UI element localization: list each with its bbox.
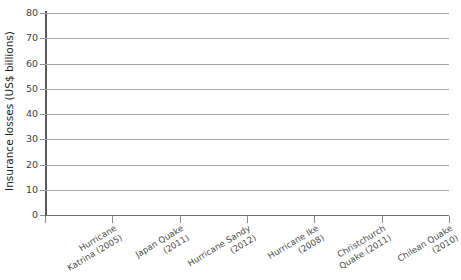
y-tick-label-50: 50	[16, 84, 38, 94]
y-tick-mark-70	[40, 38, 45, 39]
gridline-10	[45, 190, 449, 191]
y-tick-label-10: 10	[16, 185, 38, 195]
x-tick-mark-3	[247, 216, 248, 223]
gridline-50	[45, 89, 449, 90]
x-tick-mark-1	[112, 216, 113, 223]
y-tick-label-20: 20	[16, 160, 38, 170]
gridline-80	[45, 13, 449, 14]
gridline-20	[45, 165, 449, 166]
plot-area	[45, 13, 449, 215]
gridline-60	[45, 64, 449, 65]
y-tick-mark-20	[40, 165, 45, 166]
y-tick-label-80: 80	[16, 8, 38, 18]
y-tick-mark-10	[40, 190, 45, 191]
x-tick-mark-4	[314, 216, 315, 223]
y-tick-label-40: 40	[16, 109, 38, 119]
y-tick-label-60: 60	[16, 59, 38, 69]
y-tick-mark-80	[40, 13, 45, 14]
x-tick-mark-5	[382, 216, 383, 223]
y-tick-mark-30	[40, 139, 45, 140]
gridline-40	[45, 114, 449, 115]
x-tick-mark-0	[45, 216, 46, 223]
x-tick-mark-2	[180, 216, 181, 223]
x-axis-category-labels: HurricaneKatrina (2005)Japan Quake(2011)…	[0, 223, 455, 280]
y-tick-mark-50	[40, 89, 45, 90]
y-tick-mark-40	[40, 114, 45, 115]
gridline-70	[45, 38, 449, 39]
gridline-30	[45, 139, 449, 140]
y-tick-label-70: 70	[16, 33, 38, 43]
x-tick-mark-6	[449, 216, 450, 223]
y-tick-mark-60	[40, 64, 45, 65]
y-tick-label-0: 0	[16, 210, 38, 220]
y-tick-label-30: 30	[16, 134, 38, 144]
